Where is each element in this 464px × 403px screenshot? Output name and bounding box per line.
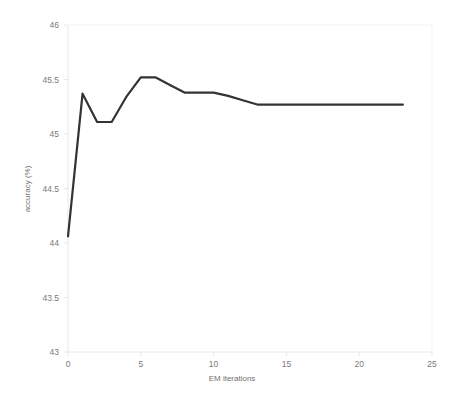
x-axis-label: EM iterations — [209, 374, 256, 383]
x-tick-label: 20 — [354, 359, 364, 369]
y-tick-label: 46 — [50, 20, 60, 30]
line-chart: 0510152025 4343.54444.54545.546 EM itera… — [0, 0, 464, 403]
chart-figure: 0510152025 4343.54444.54545.546 EM itera… — [0, 0, 464, 403]
y-tick-label: 45.5 — [42, 75, 59, 85]
y-tick-label: 44 — [50, 238, 60, 248]
y-tick-label: 43 — [50, 347, 60, 357]
x-tick-label: 0 — [66, 359, 71, 369]
y-axis-label: accuracy (%) — [23, 165, 32, 212]
y-tick-label: 44.5 — [42, 184, 59, 194]
x-tick-label: 10 — [209, 359, 219, 369]
x-tick-label: 5 — [138, 359, 143, 369]
y-tick-label: 45 — [50, 129, 60, 139]
chart-background — [0, 0, 464, 403]
x-tick-label: 15 — [282, 359, 292, 369]
y-tick-label: 43.5 — [42, 293, 59, 303]
x-tick-label: 25 — [427, 359, 437, 369]
